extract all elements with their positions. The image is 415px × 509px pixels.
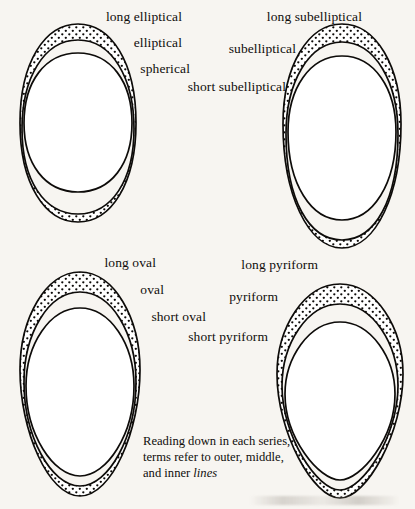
label-short-pyriform: short pyriform (130, 330, 268, 344)
inner-fill-short-oval (26, 308, 134, 476)
label-pyriform: pyriform (140, 290, 278, 304)
egg-diagram-elliptical (8, 22, 148, 227)
label-short-oval: short oval (0, 310, 206, 324)
label-spherical: spherical (0, 62, 190, 76)
caption-line-1: Reading down in each series, (143, 434, 290, 450)
label-short-subelliptical: short subelliptical (140, 80, 286, 94)
egg-diagram-subelliptical (272, 22, 412, 254)
caption-italic-lines: lines (193, 466, 217, 480)
label-long-elliptical: long elliptical (0, 10, 182, 24)
label-long-oval: long oval (0, 256, 156, 270)
egg-shape-figure: long elliptical elliptical spherical lon… (0, 0, 415, 509)
caption-line-3: and inner lines (143, 466, 290, 482)
caption-line-2: terms refer to outer, middle, (143, 450, 290, 466)
figure-caption: Reading down in each series, terms refer… (143, 434, 290, 482)
label-long-subelliptical: long subelliptical (170, 10, 362, 24)
scan-artifact (250, 496, 400, 505)
label-subelliptical: subelliptical (150, 42, 296, 56)
label-long-pyriform: long pyriform (160, 258, 318, 272)
caption-line-3-text: and inner (143, 466, 193, 480)
egg-diagram-oval (8, 270, 153, 502)
